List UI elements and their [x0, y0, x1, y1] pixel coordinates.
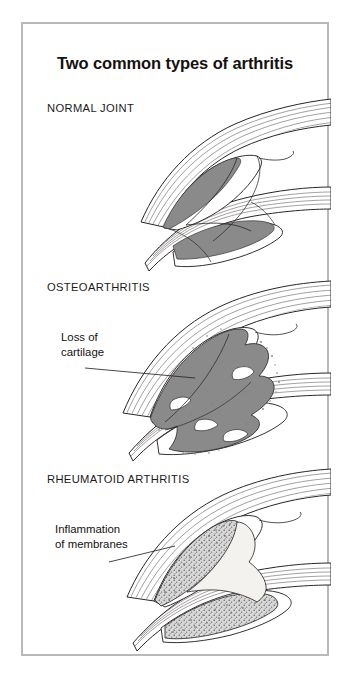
callout-line-1: Inflammation: [55, 522, 128, 537]
normal-joint-illustration: [23, 94, 331, 274]
panel-osteoarthritis: OSTEOARTHRITIS: [23, 272, 327, 462]
panel-rheumatoid-arthritis: RHEUMATOID ARTHRITIS: [23, 464, 327, 654]
callout-line-2: cartilage: [61, 345, 104, 360]
figure-frame: Two common types of arthritis NORMAL JOI…: [21, 22, 329, 656]
callout-inflammation-of-membranes: Inflammation of membranes: [55, 522, 128, 552]
osteoarthritis-illustration: [23, 272, 331, 462]
callout-line-1: Loss of: [61, 330, 104, 345]
callout-loss-of-cartilage: Loss of cartilage: [61, 330, 104, 360]
callout-line-2: of membranes: [55, 537, 128, 552]
rheumatoid-arthritis-illustration: [23, 464, 331, 654]
page-title: Two common types of arthritis: [23, 54, 327, 73]
figure-page: Two common types of arthritis NORMAL JOI…: [0, 0, 350, 680]
panel-normal-joint: NORMAL JOINT: [23, 94, 327, 274]
